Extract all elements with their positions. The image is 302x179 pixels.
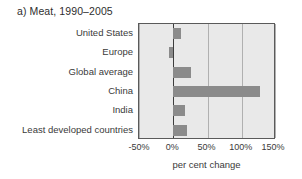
- gridline-150: [275, 24, 276, 138]
- bar-row: [139, 63, 274, 82]
- x-tick-50: 50%: [197, 142, 215, 152]
- category-label-india: India: [0, 105, 133, 115]
- bar-india: [173, 105, 185, 116]
- category-axis-labels: United States Europe Global average Chin…: [0, 23, 133, 139]
- category-label-europe: Europe: [0, 47, 133, 57]
- x-axis-tick-labels: -50% 0% 50% 100% 150%: [138, 142, 275, 154]
- bar-global-average: [173, 67, 191, 78]
- category-label-united-states: United States: [0, 28, 133, 38]
- category-label-china: China: [0, 86, 133, 96]
- x-tick-0: 0%: [166, 142, 179, 152]
- x-axis-label: per cent change: [138, 159, 275, 170]
- category-label-least-developed-countries: Least developed countries: [0, 125, 133, 135]
- bar-row: [139, 24, 274, 43]
- bar-least-developed-countries: [173, 125, 187, 136]
- bar-china: [173, 86, 260, 97]
- bar-row: [139, 101, 274, 120]
- bar-row: [139, 43, 274, 62]
- x-tick--50: -50%: [128, 142, 149, 152]
- x-tick-150: 150%: [261, 142, 284, 152]
- plot-area: [138, 23, 275, 139]
- chart-figure: a) Meat, 1990–2005 United States Europe …: [0, 0, 302, 179]
- bar-europe: [169, 47, 174, 58]
- bar-united-states: [173, 28, 181, 39]
- bar-row: [139, 121, 274, 140]
- chart-title: a) Meat, 1990–2005: [17, 5, 113, 17]
- category-label-global-average: Global average: [0, 67, 133, 77]
- bar-series: [139, 24, 274, 138]
- bar-row: [139, 82, 274, 101]
- x-tick-100: 100%: [229, 142, 252, 152]
